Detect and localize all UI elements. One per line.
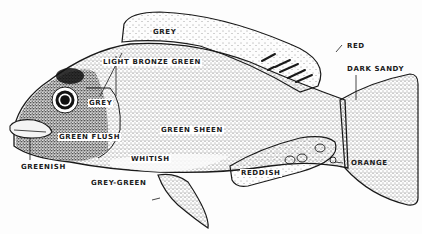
label-red: RED [346,42,366,50]
caudal-fin [340,74,418,205]
label-orange: ORANGE [350,159,389,167]
label-green-flush: GREEN FLUSH [58,133,121,141]
label-whitish: WHITISH [130,155,171,163]
label-grey-green: GREY-GREEN [90,179,147,187]
label-reddish: REDDISH [240,169,282,177]
label-grey-operculum: GREY [88,99,113,107]
label-green-sheen: GREEN SHEEN [160,126,224,134]
label-greenish: GREENISH [20,163,67,171]
fish-diagram: GREY RED LIGHT BRONZE GREEN DARK SANDY G… [0,0,422,234]
label-dark-sandy: DARK SANDY [346,65,405,73]
eye [52,87,78,113]
label-light-bronze-green: LIGHT BRONZE GREEN [102,58,202,66]
fish-illustration [0,0,422,234]
pelvic-fin [158,174,208,228]
label-grey-dorsal-fin: GREY [152,28,177,36]
